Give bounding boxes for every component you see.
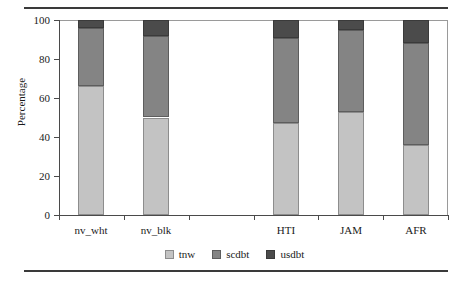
x-axis-tick-label: nv_blk <box>141 224 172 236</box>
x-axis-tick-label: HTI <box>277 224 295 236</box>
legend-label: tnw <box>179 248 196 260</box>
x-axis-tick <box>383 215 384 220</box>
legend-item-tnw[interactable]: tnw <box>165 248 196 260</box>
stacked-bar[interactable] <box>403 20 429 215</box>
stacked-bar[interactable] <box>78 20 104 215</box>
plot-right-border <box>447 20 448 216</box>
bar-segment-tnw[interactable] <box>403 145 429 215</box>
x-axis-tick <box>124 215 125 220</box>
x-axis-tick-label: nv_wht <box>75 224 108 236</box>
stacked-bar[interactable] <box>338 20 364 215</box>
y-axis-tick <box>54 137 59 138</box>
y-axis-title: Percentage <box>15 47 27 157</box>
x-axis-tick <box>59 215 60 220</box>
legend-item-scdbt[interactable]: scdbt <box>212 248 249 260</box>
y-axis-tick <box>54 59 59 60</box>
x-axis-tick <box>448 215 449 220</box>
bar-segment-scdbt[interactable] <box>143 36 169 118</box>
bar-segment-tnw[interactable] <box>273 123 299 215</box>
bar-segment-scdbt[interactable] <box>403 43 429 144</box>
legend-label: usdbt <box>280 248 304 260</box>
x-axis-tick <box>254 215 255 220</box>
bar-segment-scdbt[interactable] <box>338 30 364 112</box>
legend-swatch-icon <box>212 250 221 259</box>
y-axis-tick <box>54 98 59 99</box>
y-axis-tick <box>54 176 59 177</box>
y-axis-tick-label: 40 <box>39 132 50 143</box>
y-axis-tick-label: 20 <box>39 171 50 182</box>
legend-swatch-icon <box>266 250 275 259</box>
y-axis-tick <box>54 20 59 21</box>
top-horizontal-rule <box>24 7 448 9</box>
stacked-bar[interactable] <box>273 20 299 215</box>
bar-segment-tnw[interactable] <box>338 112 364 215</box>
bottom-horizontal-rule <box>24 270 448 272</box>
y-axis-line <box>59 20 60 216</box>
bar-segment-tnw[interactable] <box>78 86 104 215</box>
y-axis-tick-label: 0 <box>45 210 51 221</box>
y-axis-tick-label: 100 <box>34 15 51 26</box>
bar-segment-scdbt[interactable] <box>273 38 299 124</box>
plot-top-border <box>59 20 448 21</box>
bar-segment-scdbt[interactable] <box>78 28 104 87</box>
y-axis-tick-label: 60 <box>39 93 50 104</box>
chart-legend: tnwscdbtusdbt <box>0 248 469 260</box>
plot-area: 020406080100 nv_whtnv_blkHTIJAMAFR <box>59 20 448 216</box>
legend-swatch-icon <box>165 250 174 259</box>
bar-segment-usdbt[interactable] <box>403 20 429 43</box>
y-axis-tick-label: 80 <box>39 54 50 65</box>
bar-segment-tnw[interactable] <box>143 118 169 216</box>
x-axis-tick <box>318 215 319 220</box>
x-axis-tick-label: AFR <box>405 224 426 236</box>
bar-segment-usdbt[interactable] <box>338 20 364 30</box>
stacked-bar[interactable] <box>143 20 169 215</box>
legend-label: scdbt <box>226 248 249 260</box>
legend-item-usdbt[interactable]: usdbt <box>266 248 304 260</box>
chart-figure: Percentage 020406080100 nv_whtnv_blkHTIJ… <box>0 0 469 283</box>
x-axis-tick-label: JAM <box>340 224 362 236</box>
bar-segment-usdbt[interactable] <box>273 20 299 38</box>
bar-segment-usdbt[interactable] <box>78 20 104 28</box>
x-axis-tick <box>189 215 190 220</box>
bar-segment-usdbt[interactable] <box>143 20 169 36</box>
